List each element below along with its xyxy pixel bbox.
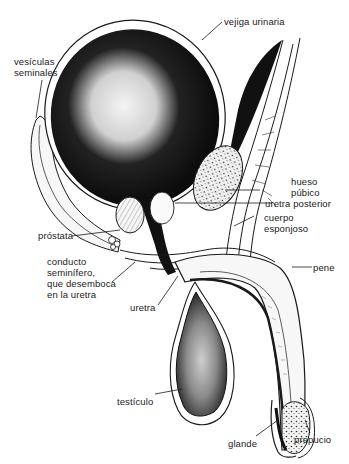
label-prepucio: prepucio (294, 434, 331, 445)
label-hueso-pubico: hueso púbico (291, 176, 320, 198)
label-conducto-seminifero: conducto seminífero, que desemboca en la… (47, 256, 116, 300)
label-prostata: próstata (38, 230, 73, 241)
label-uretra: uretra (130, 302, 155, 313)
label-hueso-line1: hueso (291, 176, 320, 187)
label-vejiga-urinaria: vejiga urinaria (224, 16, 285, 27)
label-glande: glande (228, 438, 257, 449)
label-conducto-line3: que desemboca (47, 278, 116, 289)
anatomy-diagram: vejiga urinaria vesículas seminales hues… (0, 0, 349, 464)
label-cuerpo-esponjoso: cuerpo esponjoso (264, 212, 308, 234)
prostate (116, 197, 144, 233)
glans (282, 402, 310, 454)
label-conducto-line2: seminífero, (47, 267, 116, 278)
label-hueso-line2: púbico (291, 187, 320, 198)
label-vesiculas-seminales: vesículas seminales (14, 56, 58, 78)
label-testiculo: testículo (117, 396, 153, 407)
label-pene: pene (313, 262, 335, 273)
label-cuerpo-line2: esponjoso (264, 223, 308, 234)
label-conducto-line4: en la uretra (47, 289, 116, 300)
label-vesiculas-line1: vesículas (14, 56, 58, 67)
pubic-hair (252, 116, 276, 206)
label-cuerpo-line1: cuerpo (264, 212, 308, 223)
label-vesiculas-line2: seminales (14, 67, 58, 78)
label-conducto-line1: conducto (47, 256, 116, 267)
label-uretra-posterior: uretra posterior (265, 198, 331, 209)
